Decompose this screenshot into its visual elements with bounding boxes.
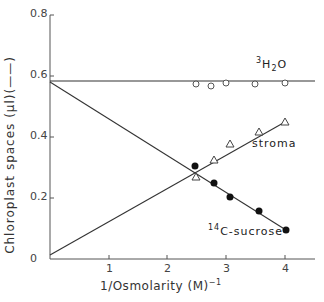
stroma-series-label: stroma xyxy=(252,137,297,150)
y-tick-0: 0 xyxy=(30,252,37,265)
y-tick-0.4: 0.4 xyxy=(30,129,48,142)
y-tick-0.8: 0.8 xyxy=(30,7,48,20)
x-tick-3: 3 xyxy=(223,262,230,275)
sucrose-fit-line xyxy=(50,82,286,230)
x-tick-2: 2 xyxy=(164,262,171,275)
y-tick-0.6: 0.6 xyxy=(30,68,48,81)
x-tick-1: 1 xyxy=(106,262,113,275)
sucrose-series-label: 14C-sucrose xyxy=(208,223,283,238)
y-tick-0.2: 0.2 xyxy=(30,190,48,203)
y-axis-label: Chloroplast spaces (µl)(——) xyxy=(3,56,17,254)
chart-plot-area xyxy=(0,0,324,302)
x-tick-4: 4 xyxy=(282,262,289,275)
water-series-label: 3H2O xyxy=(256,56,287,73)
x-axis-label: 1/Osmolarity (M)−1 xyxy=(100,278,222,293)
